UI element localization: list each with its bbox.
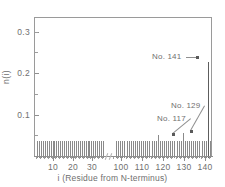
- x-axis-minor-tick: [155, 157, 156, 159]
- x-axis-minor-tick: [52, 157, 53, 159]
- x-axis-tick: [205, 157, 206, 161]
- y-axis-minor-tick: [35, 52, 38, 53]
- x-axis-minor-tick: [188, 157, 189, 159]
- bar: [208, 62, 209, 158]
- x-axis-minor-tick: [151, 157, 152, 159]
- x-axis-minor-tick: [176, 157, 177, 159]
- x-axis-tick: [73, 157, 74, 161]
- x-axis-minor-tick: [167, 157, 168, 159]
- x-axis-minor-tick: [196, 157, 197, 159]
- x-axis-minor-tick: [98, 157, 99, 159]
- x-axis-tick-label: 10: [42, 162, 64, 172]
- y-axis-tick-label: 0.3: [4, 27, 30, 37]
- x-axis-minor-tick: [79, 157, 80, 159]
- axis-break-marker: [104, 152, 114, 162]
- y-axis-minor-tick: [35, 32, 38, 33]
- x-axis-minor-tick: [48, 157, 49, 159]
- x-axis-minor-tick: [192, 157, 193, 159]
- x-axis-minor-tick: [159, 157, 160, 159]
- x-axis-minor-tick: [63, 157, 64, 159]
- y-axis-title: n(i): [1, 55, 11, 99]
- x-axis-tick-label: 110: [131, 162, 153, 172]
- x-axis-minor-tick: [71, 157, 72, 159]
- annotation-arrow-head: [190, 130, 193, 133]
- y-axis-minor-tick: [35, 94, 38, 95]
- bar: [183, 133, 184, 158]
- annotation-arrow-head: [172, 133, 175, 136]
- x-axis-tick: [142, 157, 143, 161]
- x-axis-title: i (Residue from N-terminus): [0, 173, 225, 183]
- annotation-arrow-head: [196, 56, 199, 59]
- x-axis-minor-tick: [171, 157, 172, 159]
- y-axis-tick: [35, 115, 39, 116]
- plot-area: [35, 18, 211, 157]
- x-axis-minor-tick: [102, 157, 103, 159]
- x-axis-minor-tick: [59, 157, 60, 159]
- y-axis-minor-tick: [35, 135, 38, 136]
- figure-canvas: 0.10.20.3 102030100110120130140 i (Resid…: [0, 0, 225, 187]
- x-axis-minor-tick: [83, 157, 84, 159]
- x-axis-minor-tick: [40, 157, 41, 159]
- annotation-label: No. 129: [171, 101, 200, 110]
- x-axis-tick: [53, 157, 54, 161]
- bar: [158, 135, 159, 158]
- x-axis-tick-label: 130: [173, 162, 195, 172]
- x-axis-minor-tick: [87, 157, 88, 159]
- x-axis-minor-tick: [75, 157, 76, 159]
- x-axis-tick: [184, 157, 185, 161]
- x-axis-tick-label: 140: [194, 162, 216, 172]
- x-axis-minor-tick: [55, 157, 56, 159]
- x-axis-minor-tick: [94, 157, 95, 159]
- x-axis-baseline: [34, 156, 213, 157]
- x-axis-tick-label: 120: [152, 162, 174, 172]
- x-axis-minor-tick: [138, 157, 139, 159]
- x-axis-minor-tick: [90, 157, 91, 159]
- x-axis-tick: [163, 157, 164, 161]
- x-axis-minor-tick: [209, 157, 210, 159]
- x-axis-tick: [92, 157, 93, 161]
- y-axis-tick: [35, 73, 39, 74]
- x-axis-minor-tick: [44, 157, 45, 159]
- x-axis-minor-tick: [36, 157, 37, 159]
- x-axis-tick-label: 100: [110, 162, 132, 172]
- x-axis-tick: [121, 157, 122, 161]
- x-axis-minor-tick: [117, 157, 118, 159]
- x-axis-tick-label: 30: [81, 162, 103, 172]
- x-axis-minor-tick: [130, 157, 131, 159]
- plot-frame: [34, 17, 212, 157]
- x-axis-minor-tick: [180, 157, 181, 159]
- y-axis-tick-label: 0.1: [4, 110, 30, 120]
- x-axis-minor-tick: [126, 157, 127, 159]
- x-axis-minor-tick: [134, 157, 135, 159]
- x-axis-minor-tick: [201, 157, 202, 159]
- annotation-label: No. 141: [152, 52, 181, 61]
- x-axis-minor-tick: [146, 157, 147, 159]
- x-axis-minor-tick: [67, 157, 68, 159]
- annotation-label: No. 117: [157, 114, 186, 123]
